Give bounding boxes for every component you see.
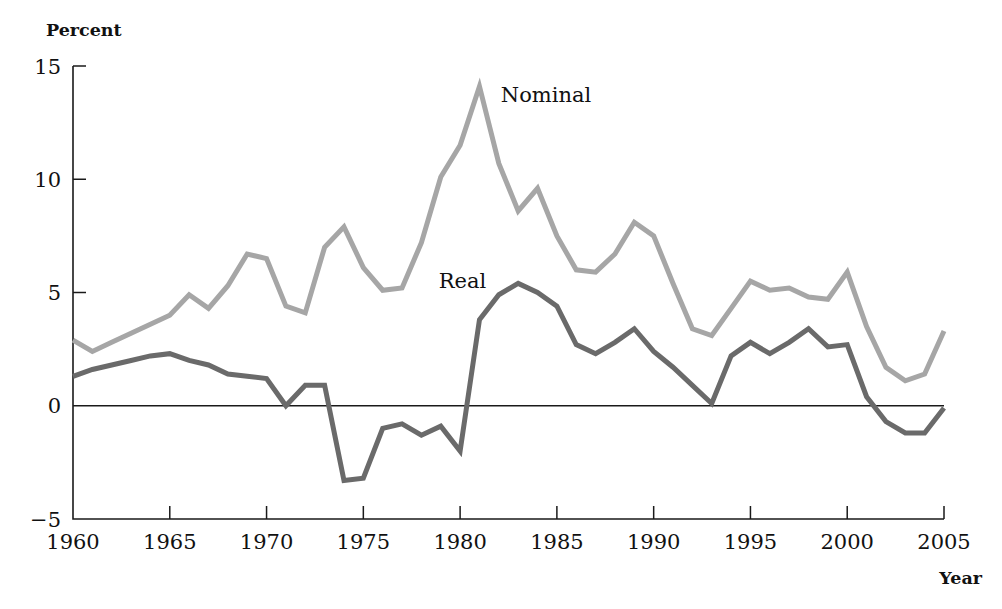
x-axis-tick-labels: 1960196519701975198019851990199520002005 xyxy=(46,530,970,554)
x-tick-label-1990: 1990 xyxy=(627,530,680,554)
series-annotation-real: Real xyxy=(439,269,487,293)
axes xyxy=(73,66,944,519)
x-axis-title: Year xyxy=(938,568,982,588)
axis-spine xyxy=(73,66,944,519)
y-tick-label-10: 10 xyxy=(34,168,61,192)
axis-ticks xyxy=(73,66,944,519)
x-tick-label-2000: 2000 xyxy=(820,530,873,554)
x-tick-label-1970: 1970 xyxy=(240,530,293,554)
series-line-real xyxy=(73,283,944,480)
x-tick-label-1960: 1960 xyxy=(46,530,99,554)
interest-rate-line-chart: −5051015 1960196519701975198019851990199… xyxy=(0,0,1002,609)
x-tick-label-1985: 1985 xyxy=(530,530,583,554)
y-tick-label--5: −5 xyxy=(30,508,61,532)
x-tick-label-1965: 1965 xyxy=(143,530,196,554)
y-axis-title: Percent xyxy=(46,20,122,40)
figure-container: −5051015 1960196519701975198019851990199… xyxy=(0,0,1002,609)
x-tick-label-2005: 2005 xyxy=(917,530,970,554)
plot-area: −5051015 1960196519701975198019851990199… xyxy=(30,55,971,555)
y-tick-label-15: 15 xyxy=(34,55,61,79)
data-series xyxy=(73,86,944,480)
x-tick-label-1995: 1995 xyxy=(724,530,777,554)
y-tick-label-5: 5 xyxy=(48,281,61,305)
series-annotation-nominal: Nominal xyxy=(501,83,592,107)
y-axis-tick-labels: −5051015 xyxy=(30,55,61,532)
series-annotations: NominalReal xyxy=(439,83,592,293)
x-tick-label-1975: 1975 xyxy=(337,530,390,554)
x-tick-label-1980: 1980 xyxy=(433,530,486,554)
y-tick-label-0: 0 xyxy=(48,394,61,418)
